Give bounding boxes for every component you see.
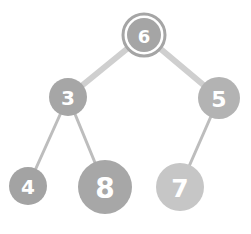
tree-node-6: 6 — [123, 14, 165, 56]
binary-tree-diagram: 635487 — [0, 0, 251, 234]
node-label: 3 — [61, 86, 75, 110]
tree-node-3: 3 — [49, 78, 87, 116]
node-label: 6 — [138, 26, 151, 47]
tree-node-7: 7 — [156, 163, 204, 211]
nodes-layer: 635487 — [9, 14, 240, 214]
tree-node-8: 8 — [78, 160, 132, 214]
node-label: 4 — [21, 175, 35, 199]
node-label: 8 — [95, 172, 114, 205]
tree-node-5: 5 — [198, 77, 240, 119]
node-label: 5 — [211, 87, 226, 112]
node-label: 7 — [171, 174, 188, 203]
tree-node-4: 4 — [9, 167, 47, 205]
